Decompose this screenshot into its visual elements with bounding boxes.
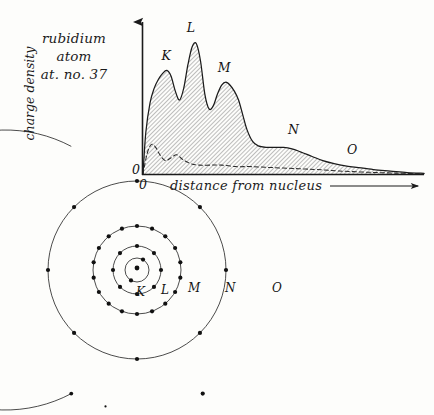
electron-m xyxy=(135,312,139,316)
electron-l xyxy=(152,285,156,289)
electron-n xyxy=(135,357,139,361)
electron-m xyxy=(150,227,154,231)
electron-l xyxy=(111,268,115,272)
electron-o xyxy=(201,392,205,396)
electron-m xyxy=(92,276,96,280)
electron-m xyxy=(92,260,96,264)
electron-k xyxy=(129,278,133,282)
electron-n xyxy=(46,268,50,272)
peak-label-k: K xyxy=(161,48,170,63)
electron-l xyxy=(118,251,122,255)
shell-label-k: K xyxy=(136,285,145,299)
peak-label-o: O xyxy=(347,142,357,157)
electron-l xyxy=(135,244,139,248)
shell-label-l: L xyxy=(161,283,169,297)
electron-m xyxy=(97,290,101,294)
electron-n xyxy=(224,268,228,272)
y-axis-origin-label: 0 xyxy=(132,162,140,177)
shell-label-o: O xyxy=(272,281,282,295)
peak-label-m: M xyxy=(218,60,231,75)
electron-m xyxy=(107,302,111,306)
electron-m xyxy=(135,224,139,228)
charge-density-area-fill xyxy=(143,43,424,174)
x-axis-label: distance from nucleus xyxy=(170,178,322,193)
electron-m xyxy=(173,246,177,250)
rubidium-atom-figure: rubidium atom at. no. 37 charge xyxy=(0,0,434,415)
shell-label-n: N xyxy=(225,281,236,295)
electron-m xyxy=(178,260,182,264)
electron-n xyxy=(72,205,76,209)
nucleus-dot xyxy=(135,266,140,271)
electron-m xyxy=(120,227,124,231)
electron-n xyxy=(198,205,202,209)
electron-o-mark xyxy=(69,392,73,396)
electron-n xyxy=(198,331,202,335)
electron-m xyxy=(178,276,182,280)
shell-label-m: M xyxy=(188,281,200,295)
electron-l xyxy=(159,268,163,272)
y-axis-label: charge density xyxy=(22,29,37,159)
electron-k xyxy=(141,258,145,262)
electron-m xyxy=(173,290,177,294)
electron-l xyxy=(152,251,156,255)
electron-m xyxy=(163,302,167,306)
x-axis-origin-label: 0 xyxy=(139,177,147,192)
peak-label-l: L xyxy=(187,20,195,35)
electron-m xyxy=(150,309,154,313)
electron-m xyxy=(120,309,124,313)
electron-m xyxy=(97,246,101,250)
electron-o-mark xyxy=(104,405,106,407)
electron-n xyxy=(72,331,76,335)
peak-label-n: N xyxy=(288,122,299,137)
electron-m xyxy=(107,234,111,238)
shell-orbit-o xyxy=(0,130,71,410)
electron-l xyxy=(118,285,122,289)
electron-m xyxy=(163,234,167,238)
